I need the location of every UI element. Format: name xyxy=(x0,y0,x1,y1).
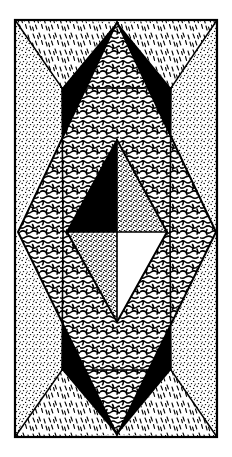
figure-artwork xyxy=(0,0,232,457)
wedge-edge-left-lower xyxy=(62,232,63,370)
wedge-edge-right-upper xyxy=(170,88,171,232)
figure-canvas xyxy=(0,0,232,457)
wedge-edge-left-upper xyxy=(62,88,63,232)
wedge-edge-right-lower xyxy=(170,232,171,370)
